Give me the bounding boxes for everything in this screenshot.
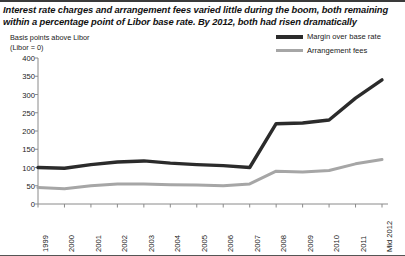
y-axis-unit-note: Basis points above Libor (Libor = 0): [10, 33, 90, 52]
x-tick-label: 2000: [67, 235, 76, 252]
legend-item-margin: Margin over base rate: [276, 31, 404, 42]
y-axis-unit-line1: Basis points above Libor: [10, 33, 90, 43]
x-tick-label: 2009: [306, 235, 315, 252]
chart-headline: Interest rate charges and arrangement fe…: [3, 4, 402, 29]
x-tick-label: 2004: [173, 235, 182, 252]
x-tick-label: 2011: [359, 236, 368, 252]
x-tick-label: 2007: [253, 235, 262, 252]
x-tick-label: Mid 2012: [385, 221, 394, 252]
legend-swatch-margin-icon: [276, 35, 303, 39]
y-axis-unit-line2: (Libor = 0): [10, 43, 90, 53]
plot-area: 050100150200250300350400 199920002001200…: [0, 52, 405, 256]
x-tick-label: 2005: [200, 235, 209, 252]
x-tick-label: 2003: [147, 235, 156, 252]
legend-label-margin: Margin over base rate: [307, 32, 381, 41]
top-divider: [0, 0, 405, 2]
x-axis-labels: 1999200020012002200320042005200620072008…: [0, 52, 405, 256]
x-tick-label: 2002: [120, 235, 129, 252]
x-tick-label: 2001: [94, 235, 103, 252]
x-tick-label: 1999: [41, 235, 50, 252]
x-tick-label: 2008: [279, 235, 288, 252]
x-tick-label: 2010: [332, 235, 341, 252]
x-tick-label: 2006: [226, 235, 235, 252]
